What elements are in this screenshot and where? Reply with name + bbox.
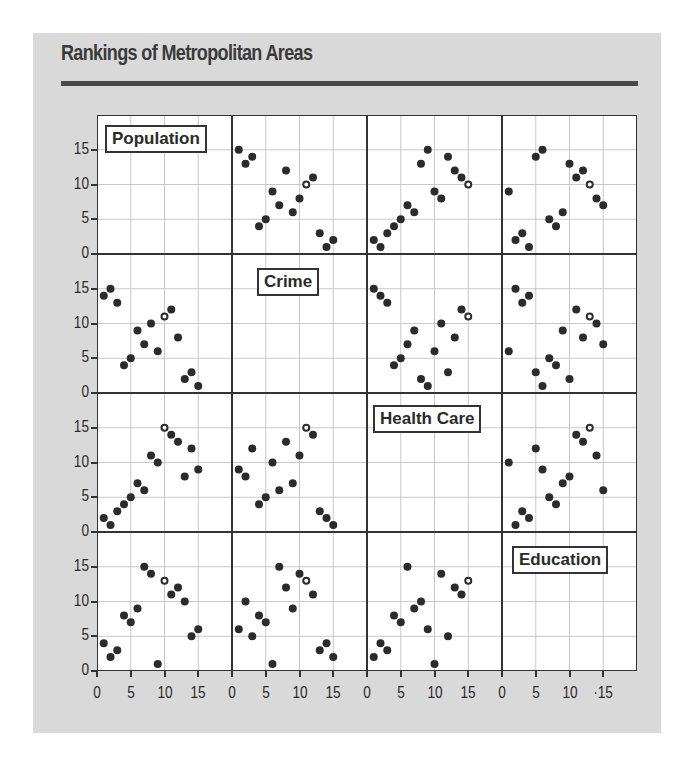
data-point (377, 639, 385, 647)
data-point (532, 368, 540, 376)
data-point (525, 243, 533, 251)
data-point (242, 160, 250, 168)
scatter-matrix-svg (97, 115, 637, 671)
x-tick-mark (96, 671, 98, 677)
variable-label-population: Population (105, 125, 207, 153)
data-point (451, 584, 459, 592)
data-point (262, 215, 270, 223)
data-point (296, 570, 304, 578)
data-point (424, 146, 432, 154)
data-point (167, 591, 175, 599)
data-point (572, 306, 580, 314)
x-tick-label: 5 (118, 684, 144, 702)
data-point (545, 493, 553, 501)
highlighted-point (587, 314, 593, 320)
y-tick-mark (91, 462, 97, 464)
data-point (404, 201, 412, 209)
data-point (289, 604, 297, 612)
data-point (120, 500, 128, 508)
data-point (525, 292, 533, 300)
data-point (444, 153, 452, 161)
data-point (255, 500, 263, 508)
data-point (147, 320, 155, 328)
data-point (127, 354, 135, 362)
y-tick-label: 5 (62, 209, 89, 227)
data-point (282, 584, 290, 592)
x-tick-label: 0 (219, 684, 245, 702)
data-point (518, 507, 526, 515)
panel-health-care-vs-education (505, 425, 608, 529)
x-tick-mark (467, 671, 469, 677)
data-point (140, 563, 148, 571)
data-point (417, 160, 425, 168)
panel-crime-vs-education (505, 285, 608, 390)
data-point (262, 493, 270, 501)
data-point (248, 632, 256, 640)
data-point (437, 570, 445, 578)
data-point (248, 445, 256, 453)
x-tick-mark (231, 671, 233, 677)
y-tick-label: 5 (62, 487, 89, 505)
data-point (572, 174, 580, 182)
scatter-matrix (97, 115, 637, 671)
data-point (269, 187, 277, 195)
data-point (383, 299, 391, 307)
data-point (329, 236, 337, 244)
data-point (282, 438, 290, 446)
data-point (552, 361, 560, 369)
data-point (174, 333, 182, 341)
y-tick-mark (91, 357, 97, 359)
y-tick-label: 10 (62, 453, 89, 471)
data-point (397, 618, 405, 626)
highlighted-point (587, 182, 593, 188)
data-point (539, 465, 547, 473)
data-point (383, 646, 391, 654)
data-point (552, 222, 560, 230)
data-point (370, 653, 378, 661)
data-point (255, 611, 263, 619)
data-point (566, 160, 574, 168)
highlighted-point (587, 425, 593, 431)
panel-health-care-vs-crime (235, 425, 338, 529)
x-tick-mark (130, 671, 132, 677)
x-tick-mark (197, 671, 199, 677)
data-point (147, 452, 155, 460)
variable-label-crime: Crime (257, 268, 319, 296)
y-tick-label: 10 (62, 314, 89, 332)
data-point (512, 521, 520, 529)
data-point (579, 333, 587, 341)
panel-education-vs-crime (235, 563, 338, 668)
data-point (309, 591, 317, 599)
data-point (451, 333, 459, 341)
data-point (417, 598, 425, 606)
data-point (532, 153, 540, 161)
y-tick-mark (91, 253, 97, 255)
data-point (410, 604, 418, 612)
x-tick-label: 10 (287, 684, 313, 702)
y-tick-label: 0 (62, 244, 89, 262)
x-tick-mark (400, 671, 402, 677)
data-point (390, 361, 398, 369)
data-point (113, 507, 121, 515)
data-point (383, 229, 391, 237)
highlighted-point (303, 425, 309, 431)
data-point (188, 368, 196, 376)
data-point (559, 326, 567, 334)
data-point (323, 639, 331, 647)
data-point (397, 215, 405, 223)
data-point (147, 570, 155, 578)
data-point (140, 486, 148, 494)
x-tick-mark (265, 671, 267, 677)
data-point (107, 285, 115, 293)
x-tick-label: 0 (84, 684, 110, 702)
data-point (397, 354, 405, 362)
data-point (593, 320, 601, 328)
x-tick-label: 10 (557, 684, 583, 702)
x-tick-label: 5 (523, 684, 549, 702)
y-tick-mark (91, 531, 97, 533)
data-point (545, 215, 553, 223)
data-point (505, 459, 513, 467)
data-point (262, 618, 270, 626)
data-point (431, 660, 439, 668)
data-point (194, 465, 202, 473)
